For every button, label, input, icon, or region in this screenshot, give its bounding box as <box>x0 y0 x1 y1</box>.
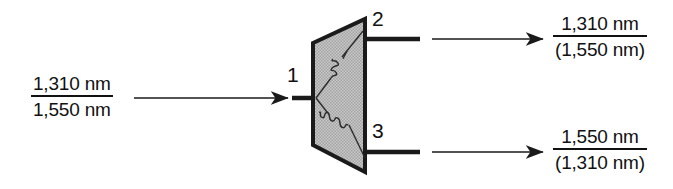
port-2-label: 2 <box>372 8 384 29</box>
input-signal-numerator: 1,310 nm <box>31 74 113 95</box>
port-1-label: 1 <box>287 64 299 85</box>
input-signal-label: 1,310 nm 1,550 nm <box>31 74 113 120</box>
output-2-signal-label: 1,310 nm (1,550 nm) <box>553 14 647 60</box>
wdm-coupler-body <box>313 19 365 172</box>
port-3-label: 3 <box>372 120 384 141</box>
input-signal-denominator: 1,550 nm <box>31 97 113 119</box>
output-2-signal-numerator: 1,310 nm <box>559 14 641 35</box>
output-3-signal-label: 1,550 nm (1,310 nm) <box>553 127 647 173</box>
output-2-signal-denominator: (1,550 nm) <box>553 37 647 59</box>
wdm-coupler-diagram: 1,310 nm 1,550 nm 1 2 3 1,310 nm (1,550 … <box>0 0 673 189</box>
output-3-signal-denominator: (1,310 nm) <box>553 150 647 172</box>
output-3-signal-numerator: 1,550 nm <box>559 127 641 148</box>
